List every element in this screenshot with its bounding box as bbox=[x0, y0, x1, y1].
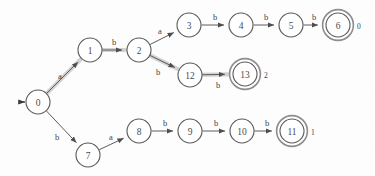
edge-label-e7_8: a bbox=[109, 132, 113, 142]
state-label-7: 7 bbox=[86, 151, 91, 161]
edge-e0_7 bbox=[47, 111, 77, 143]
accept-index-label-6: 0 bbox=[357, 22, 361, 31]
state-node-3[interactable]: 3 bbox=[177, 13, 201, 37]
state-label-8: 8 bbox=[137, 127, 142, 137]
edge-label-e9_10: b bbox=[214, 118, 218, 128]
graph-svg: 012345607891011112132 ababbbbbbabbb bbox=[0, 0, 375, 176]
state-label-5: 5 bbox=[289, 21, 294, 31]
accept-index-label-11: 1 bbox=[311, 128, 315, 137]
edge-label-e8_9: b bbox=[163, 118, 167, 128]
edge-label-e5_6: b bbox=[312, 12, 316, 22]
state-node-12[interactable]: 12 bbox=[178, 63, 202, 87]
state-node-6[interactable]: 60 bbox=[323, 10, 361, 41]
state-node-10[interactable]: 10 bbox=[230, 119, 254, 143]
state-label-12: 12 bbox=[185, 71, 195, 81]
edge-label-e2_12: b bbox=[156, 67, 160, 77]
state-node-1[interactable]: 1 bbox=[78, 38, 102, 62]
state-node-0[interactable]: 0 bbox=[26, 90, 50, 114]
state-label-2: 2 bbox=[137, 46, 142, 56]
edge-label-e1_2: b bbox=[112, 37, 116, 47]
edge-e2_3 bbox=[150, 33, 174, 45]
edge-label-e0_1: a bbox=[58, 71, 62, 81]
edge-label-e12_13: b bbox=[216, 80, 220, 90]
state-label-4: 4 bbox=[239, 21, 244, 31]
edge-e2_12 bbox=[150, 56, 175, 68]
state-node-7[interactable]: 7 bbox=[76, 143, 100, 167]
state-label-13: 13 bbox=[240, 70, 250, 80]
state-label-3: 3 bbox=[187, 21, 192, 31]
state-node-4[interactable]: 4 bbox=[229, 13, 253, 37]
automaton-diagram-canvas: 012345607891011112132 ababbbbbbabbb bbox=[0, 0, 375, 176]
state-label-1: 1 bbox=[88, 46, 93, 56]
edge-label-e0_7: b bbox=[55, 132, 59, 142]
edge-label-e4_5: b bbox=[264, 12, 268, 22]
state-node-13[interactable]: 132 bbox=[230, 59, 268, 90]
state-label-11: 11 bbox=[287, 127, 296, 137]
state-label-9: 9 bbox=[188, 127, 193, 137]
state-node-8[interactable]: 8 bbox=[127, 119, 151, 143]
state-label-10: 10 bbox=[237, 127, 247, 137]
state-node-2[interactable]: 2 bbox=[127, 38, 151, 62]
state-node-5[interactable]: 5 bbox=[279, 13, 303, 37]
state-node-11[interactable]: 111 bbox=[277, 116, 315, 147]
edge-e0_1 bbox=[47, 62, 78, 93]
state-label-6: 6 bbox=[336, 21, 341, 31]
edge-label-e2_3: a bbox=[158, 26, 162, 36]
state-node-9[interactable]: 9 bbox=[178, 119, 202, 143]
accept-index-label-13: 2 bbox=[264, 71, 268, 80]
edge-label-e3_4: b bbox=[213, 12, 217, 22]
state-label-0: 0 bbox=[36, 98, 41, 108]
node-layer: 012345607891011112132 bbox=[26, 10, 361, 167]
edge-label-e10_11: b bbox=[265, 118, 269, 128]
